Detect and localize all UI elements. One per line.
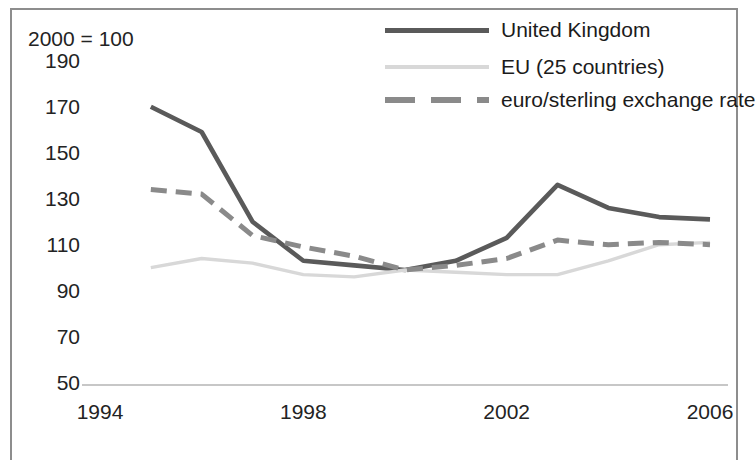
x-axis-tick-label: 2002 [462,400,552,424]
y-axis-tick-label: 190 [22,49,80,73]
series-line [151,242,710,277]
legend-label: euro/sterling exchange rate [501,88,756,112]
x-axis-tick-label: 1994 [55,400,145,424]
series-line [151,107,710,270]
legend-line-sample [385,97,489,103]
y-axis-tick-label: 130 [22,187,80,211]
legend-item[interactable]: euro/sterling exchange rate [385,88,756,112]
legend-label: United Kingdom [501,18,650,42]
legend-swatch-icon [385,57,489,77]
x-axis-tick-label: 2006 [665,400,755,424]
x-axis-tick-label: 1998 [258,400,348,424]
y-axis-tick-label: 150 [22,141,80,165]
y-axis-tick-label: 110 [22,233,80,257]
legend-swatch-icon [385,90,489,110]
legend-line-sample [385,28,489,33]
legend-label: EU (25 countries) [501,55,664,79]
y-axis-tick-label: 90 [22,279,80,303]
series-line [151,190,710,271]
y-axis-tick-label: 70 [22,325,80,349]
legend-line-sample [385,65,489,69]
y-axis-tick-label: 170 [22,95,80,119]
y-axis-tick-label: 50 [22,371,80,395]
legend-swatch-icon [385,20,489,40]
legend-item[interactable]: EU (25 countries) [385,55,664,79]
legend-item[interactable]: United Kingdom [385,18,650,42]
